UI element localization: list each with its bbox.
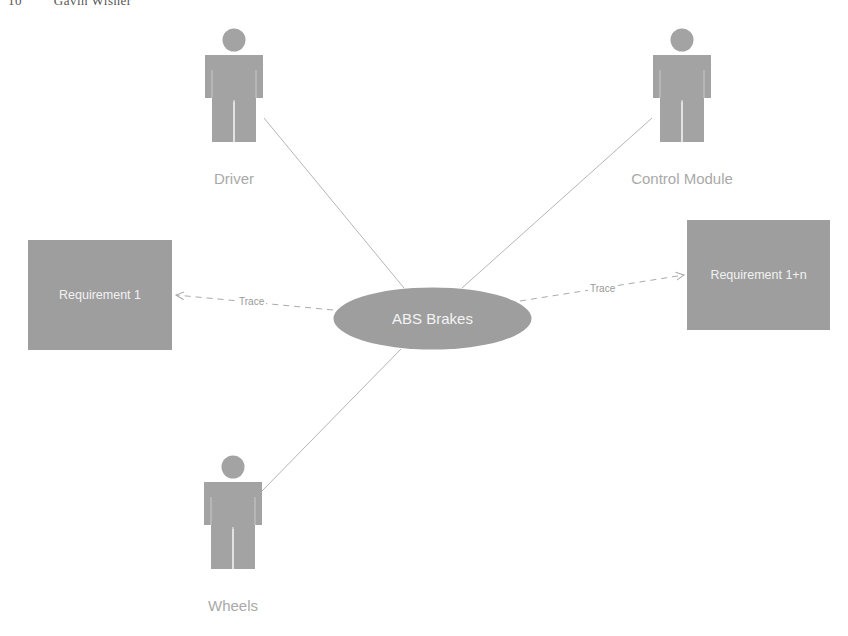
trace-label-left: Trace (237, 296, 266, 307)
requirement-1n-label: Requirement 1+n (710, 268, 806, 282)
association-driver (264, 118, 404, 288)
actor-label-driver: Driver (214, 170, 254, 187)
actor-label-wheels: Wheels (208, 597, 258, 614)
trace-label-right: Trace (588, 283, 617, 294)
actor-label-control-module: Control Module (631, 170, 733, 187)
use-case-label: ABS Brakes (392, 310, 473, 327)
use-case-abs-brakes[interactable]: ABS Brakes (333, 287, 532, 350)
person-icon (204, 456, 262, 570)
requirement-1-label: Requirement 1 (59, 288, 141, 302)
requirement-1n-box[interactable]: Requirement 1+n (687, 220, 830, 330)
person-icon (205, 29, 263, 143)
association-control-module (462, 118, 652, 288)
requirement-1-box[interactable]: Requirement 1 (28, 240, 172, 350)
association-wheels (262, 349, 401, 491)
person-icon (653, 29, 711, 143)
